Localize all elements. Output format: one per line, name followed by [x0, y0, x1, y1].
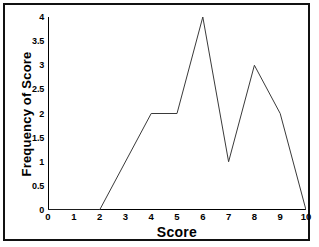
x-axis-tick-label: 10	[296, 211, 316, 222]
x-axis-tick-label: 3	[115, 211, 135, 222]
y-axis-tick-label: 1	[18, 157, 44, 166]
x-axis-tick-label: 1	[64, 211, 84, 222]
y-axis-tick-label: 3	[18, 61, 44, 70]
x-axis-title: Score	[48, 224, 306, 240]
y-axis-tick-label: 1.5	[18, 133, 44, 142]
y-axis-tick-label: 0.5	[18, 181, 44, 190]
x-axis-tick-label: 0	[38, 211, 58, 222]
y-axis-tick-labels: 00.511.522.533.54	[14, 17, 44, 210]
y-axis-tick-label: 2	[18, 109, 44, 118]
data-line-series	[48, 17, 306, 210]
x-axis-tick-label: 5	[167, 211, 187, 222]
frequency-polygon-chart	[48, 17, 306, 210]
x-axis-tick-labels: 012345678910	[48, 211, 306, 225]
chart-frame: Frequency of Score 00.511.522.533.54 012…	[3, 3, 310, 241]
y-axis-tick-label: 3.5	[18, 37, 44, 46]
plot-area	[48, 17, 306, 210]
x-axis-tick-label: 4	[141, 211, 161, 222]
x-axis-tick-label: 9	[270, 211, 290, 222]
x-axis-tick-label: 7	[219, 211, 239, 222]
y-axis-tick-label: 4	[18, 13, 44, 22]
y-axis-tick-label: 2.5	[18, 85, 44, 94]
x-axis-tick-label: 6	[193, 211, 213, 222]
x-axis-tick-label: 2	[90, 211, 110, 222]
x-axis-tick-label: 8	[244, 211, 264, 222]
